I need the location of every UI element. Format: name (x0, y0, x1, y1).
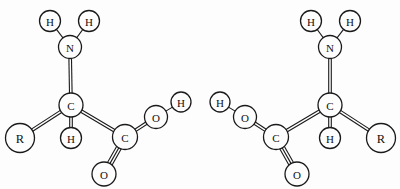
atom-r-c-carboxyl: C (264, 125, 289, 150)
molecule-canvas: HHNCHRCOHOHHNCHRCOHO (0, 0, 400, 189)
atom-r-h-hydroxyl: H (210, 92, 230, 112)
atom-label-l-h-hydroxyl: H (177, 97, 185, 109)
r-bond-c-r-stroke (338, 112, 369, 132)
atom-label-r-o-hydroxyl: O (241, 112, 249, 124)
r-bond-c-r (338, 110, 371, 132)
atom-label-l-c-alpha: C (67, 100, 74, 112)
r-bond-c-o-double-stroke (279, 148, 289, 166)
l-bond-c-r-stroke (30, 110, 61, 130)
l-bond-c-c (79, 109, 116, 132)
atom-r-r: R (367, 124, 396, 153)
atom-label-r-h-amine-right: H (346, 16, 354, 28)
r-bond-c-c-stroke (286, 111, 322, 132)
atom-r-c-alpha: C (318, 93, 342, 117)
r-bond-c-c (285, 109, 322, 132)
r-bond-n-c (329, 57, 332, 95)
atom-label-r-h-alpha: H (326, 133, 334, 145)
atom-label-l-h-amine-right: H (85, 16, 93, 28)
l-bond-n-c (69, 57, 72, 95)
atom-label-l-c-carboxyl: C (121, 132, 128, 144)
atom-r-h-amine-left: H (301, 11, 322, 32)
l-bond-n-c-stroke (71, 57, 72, 95)
atom-label-r-o-carbonyl: O (293, 169, 301, 181)
atom-r-o-hydroxyl: O (234, 106, 257, 129)
atom-r-n: N (319, 36, 342, 59)
l-bond-c-c-stroke (79, 111, 115, 132)
left-enantiomer-atoms: HHNCHRCOHO (6, 11, 192, 187)
l-bond-c-o-double-stroke (109, 147, 119, 165)
atom-l-o-hydroxyl: O (145, 106, 168, 129)
r-bond-c-c-stroke (285, 109, 321, 130)
atom-l-r: R (6, 124, 35, 153)
atom-label-l-o-carbonyl: O (100, 169, 108, 181)
atom-label-l-n: N (66, 42, 74, 54)
atom-l-h-amine-right: H (79, 11, 100, 32)
atom-l-o-carbonyl: O (92, 162, 116, 186)
atom-label-l-o-hydroxyl: O (152, 112, 160, 124)
l-bond-c-r (30, 110, 63, 132)
left-enantiomer-bonds (30, 28, 174, 166)
l-bond-c-o-double-stroke (111, 148, 121, 166)
atoms-layer: HHNCHRCOHOHHNCHRCOHO (6, 11, 396, 187)
atom-l-h-alpha: H (61, 128, 82, 149)
l-bond-n-c-stroke (69, 57, 70, 94)
atom-label-l-h-alpha: H (67, 133, 75, 145)
atom-l-c-alpha: C (59, 93, 83, 117)
atom-r-h-amine-right: H (340, 11, 361, 32)
atom-label-l-r: R (16, 132, 25, 146)
atom-label-r-h-amine-left: H (307, 16, 315, 28)
atom-label-r-h-hydroxyl: H (216, 97, 224, 109)
right-enantiomer-atoms: HHNCHRCOHO (210, 11, 396, 187)
r-bond-c-r-stroke (340, 110, 371, 130)
atom-r-o-carbonyl: O (285, 162, 309, 186)
l-bond-c-c-stroke (81, 109, 117, 130)
r-bond-c-o-double-stroke (281, 147, 291, 165)
atom-l-h-hydroxyl: H (171, 92, 191, 112)
atom-label-r-n: N (326, 42, 334, 54)
l-bond-c-r-stroke (32, 112, 63, 132)
right-enantiomer-bonds (227, 28, 371, 166)
atom-label-r-c-alpha: C (326, 100, 333, 112)
atom-l-n: N (59, 36, 82, 59)
atom-r-h-alpha: H (320, 128, 341, 149)
atom-l-h-amine-left: H (40, 11, 61, 32)
l-bond-c-o-double-stroke (107, 145, 117, 163)
molecule-figure: HHNCHRCOHOHHNCHRCOHO (0, 0, 400, 189)
atom-label-l-h-amine-left: H (46, 16, 54, 28)
atom-label-r-c-carboxyl: C (272, 132, 279, 144)
r-bond-c-o-double-stroke (284, 145, 294, 163)
atom-label-r-r: R (377, 132, 386, 146)
atom-l-c-carboxyl: C (113, 125, 138, 150)
